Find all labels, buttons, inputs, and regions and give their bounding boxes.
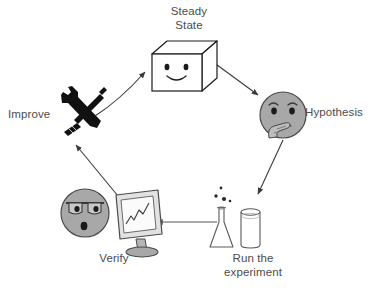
surprised-face-icon bbox=[61, 189, 109, 237]
flask-and-beaker-icon bbox=[210, 187, 260, 248]
arrow-hypothesis-to-experiment bbox=[258, 140, 283, 194]
node-label-hypothesis: Hypothesis bbox=[305, 106, 375, 120]
node-label-run-the-experiment: Run the experiment bbox=[203, 252, 303, 279]
monitor-chart-icon bbox=[116, 190, 162, 257]
diagram-graphics bbox=[0, 0, 375, 294]
node-label-verify: Verify bbox=[84, 252, 144, 266]
arrow-steady-state-to-hypothesis bbox=[213, 62, 258, 95]
diagram-canvas: Steady State Hypothesis Run the experime… bbox=[0, 0, 375, 294]
smiling-cube-icon bbox=[152, 41, 217, 91]
arrow-verify-to-improve bbox=[76, 145, 118, 196]
thinking-face-icon bbox=[260, 92, 306, 138]
node-label-steady-state: Steady State bbox=[146, 5, 232, 32]
node-label-improve: Improve bbox=[8, 108, 68, 122]
